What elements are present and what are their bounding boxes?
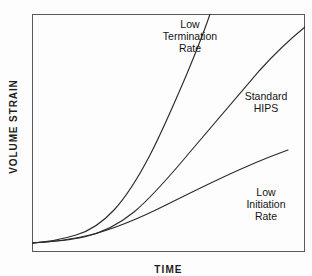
x-axis-title: TIME — [32, 264, 305, 275]
curve-label-standard-hips: Standard HIPS — [232, 90, 300, 114]
curve-label-low-initiation-rate: Low Initiation Rate — [228, 186, 304, 223]
x-axis-title-text: TIME — [154, 264, 182, 275]
y-axis-title: VOLUME STRAIN — [0, 0, 26, 252]
curve-label-line-2: HIPS — [232, 102, 300, 114]
curve-label-line-3: Rate — [148, 42, 232, 54]
figure-canvas: VOLUME STRAIN Low Termination Rate Stand… — [0, 0, 312, 276]
curve-label-line-3: Rate — [228, 210, 304, 222]
curve-label-line-1: Low — [148, 18, 232, 30]
curve-label-line-1: Standard — [232, 90, 300, 102]
curve-label-line-2: Termination — [148, 30, 232, 42]
curve-label-low-termination-rate: Low Termination Rate — [148, 18, 232, 55]
y-axis-title-text: VOLUME STRAIN — [8, 79, 19, 173]
curve-label-line-1: Low — [228, 186, 304, 198]
curve-label-line-2: Initiation — [228, 198, 304, 210]
